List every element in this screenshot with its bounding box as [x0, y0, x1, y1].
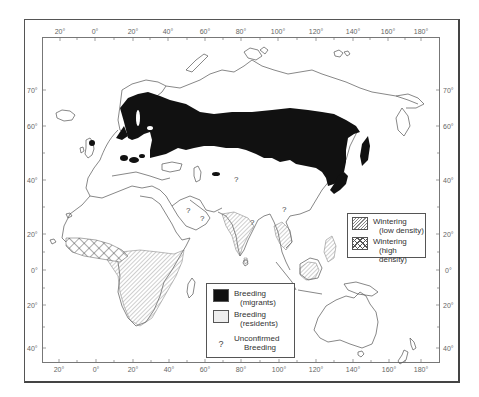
- legend-sublabel: (high density): [373, 246, 425, 264]
- top-ticks: [60, 37, 421, 41]
- legend-item-unconfirmed-breeding: ? UnconfirmedBreeding: [213, 334, 279, 352]
- wintering-high-density-range: [66, 238, 128, 262]
- diagonal-hatch-swatch-icon: [352, 217, 368, 230]
- legend-item-wintering-low-density: Wintering(low density): [352, 217, 424, 235]
- unconfirmed-breeding-marker: ?: [234, 175, 238, 184]
- unconfirmed-breeding-marker: ?: [186, 206, 190, 215]
- legend-sublabel: (residents): [234, 319, 278, 328]
- legend-sublabel: Breeding: [234, 343, 279, 352]
- question-mark-icon: ?: [213, 334, 229, 349]
- legend-label: Wintering: [373, 237, 407, 246]
- legend-label: Breeding: [234, 289, 266, 298]
- unconfirmed-breeding-marker: ?: [250, 218, 254, 227]
- wintering-legend: Wintering(low density) Wintering(high de…: [347, 213, 426, 258]
- legend-sublabel: (migrants): [234, 298, 276, 307]
- legend-item-breeding-migrants: Breeding(migrants): [213, 289, 276, 307]
- solid-black-swatch-icon: [213, 289, 229, 302]
- unconfirmed-breeding-marker: ?: [200, 214, 204, 223]
- legend-label: Wintering: [373, 217, 407, 226]
- bottom-ticks: [59, 359, 421, 363]
- legend-item-wintering-high-density: Wintering(high density): [352, 237, 425, 264]
- unconfirmed-breeding-marker: ?: [282, 205, 286, 214]
- legend-item-breeding-residents: Breeding(residents): [213, 310, 278, 328]
- breeding-legend: Breeding(migrants) Breeding(residents) ?…: [206, 283, 295, 358]
- stipple-swatch-icon: [213, 310, 229, 323]
- legend-label: Breeding: [234, 310, 266, 319]
- crosshatch-swatch-icon: [352, 237, 368, 250]
- breeding-migrants-range: [89, 92, 370, 194]
- legend-sublabel: (low density): [373, 226, 424, 235]
- legend-label: Unconfirmed: [234, 334, 279, 343]
